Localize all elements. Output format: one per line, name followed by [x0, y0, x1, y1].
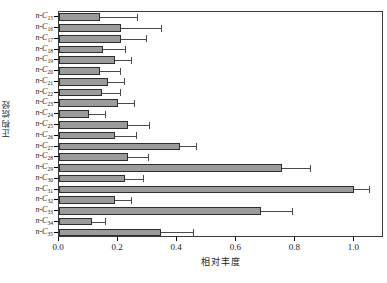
- x-tick-label-0.6: 0.6: [230, 242, 241, 252]
- bar-n-C22: [59, 89, 102, 97]
- error-bar-cap-n-C19: [131, 57, 132, 64]
- y-tick-label-n-C16: n-C16: [35, 22, 53, 32]
- error-bar-line-n-C28: [128, 157, 147, 158]
- y-tick-mark: [54, 102, 58, 103]
- error-bar-line-n-C19: [115, 60, 131, 61]
- bar-n-C30: [59, 175, 125, 183]
- error-bar-line-n-C23: [118, 103, 134, 104]
- x-axis-title: 相对丰度: [58, 255, 383, 268]
- error-bar-cap-n-C18: [125, 46, 126, 53]
- x-tick-mark: [176, 237, 177, 241]
- y-tick-mark: [54, 49, 58, 50]
- bar-row-n-C22: [59, 87, 384, 98]
- error-bar-line-n-C30: [125, 179, 143, 180]
- bar-row-n-C29: [59, 163, 384, 174]
- y-tick-mark: [54, 156, 58, 157]
- y-tick-label-n-C19: n-C19: [35, 54, 53, 64]
- bar-row-n-C25: [59, 120, 384, 131]
- bar-row-n-C15: [59, 12, 384, 23]
- y-tick-mark: [54, 124, 58, 125]
- y-tick-label-n-C32: n-C32: [35, 194, 53, 204]
- error-bar-line-n-C25: [128, 125, 149, 126]
- x-tick-label-0.0: 0.0: [52, 242, 63, 252]
- bar-row-n-C33: [59, 206, 384, 217]
- y-tick-mark: [54, 27, 58, 28]
- bar-n-C35: [59, 229, 161, 237]
- error-bar-cap-n-C32: [131, 197, 132, 204]
- error-bar-line-n-C32: [115, 200, 131, 201]
- bar-row-n-C17: [59, 34, 384, 45]
- y-tick-mark: [54, 113, 58, 114]
- y-axis-title-text: 正构烷烃: [1, 99, 13, 137]
- y-tick-label-n-C24: n-C24: [35, 108, 53, 118]
- error-bar-line-n-C21: [108, 82, 124, 83]
- error-bar-line-n-C18: [103, 49, 125, 50]
- error-bar-line-n-C20: [100, 71, 119, 72]
- bar-row-n-C24: [59, 109, 384, 120]
- bar-n-C19: [59, 56, 115, 64]
- error-bar-cap-n-C34: [105, 218, 106, 225]
- plot-area: [58, 11, 383, 237]
- y-tick-label-n-C17: n-C17: [35, 33, 53, 43]
- bar-row-n-C20: [59, 66, 384, 77]
- y-tick-mark: [54, 232, 58, 233]
- error-bar-cap-n-C30: [143, 175, 144, 182]
- y-tick-label-n-C35: n-C35: [35, 227, 53, 237]
- y-tick-mark: [54, 167, 58, 168]
- x-tick-mark: [117, 237, 118, 241]
- error-bar-line-n-C34: [92, 222, 105, 223]
- error-bar-cap-n-C33: [292, 208, 293, 215]
- error-bar-cap-n-C21: [124, 78, 125, 85]
- bar-n-C34: [59, 218, 92, 226]
- bar-n-C24: [59, 110, 89, 118]
- y-tick-mark: [54, 210, 58, 211]
- y-tick-mark: [54, 189, 58, 190]
- error-bar-line-n-C33: [261, 211, 292, 212]
- y-tick-label-n-C23: n-C23: [35, 97, 53, 107]
- bar-row-n-C21: [59, 77, 384, 88]
- bar-row-n-C27: [59, 141, 384, 152]
- bar-n-C32: [59, 196, 115, 204]
- bar-n-C25: [59, 121, 128, 129]
- error-bar-cap-n-C22: [120, 89, 121, 96]
- y-tick-label-n-C31: n-C31: [35, 184, 53, 194]
- y-tick-label-n-C22: n-C22: [35, 87, 53, 97]
- chart-figure: 正构烷烃 n-C15n-C16n-C17n-C18n-C19n-C20n-C21…: [0, 0, 387, 283]
- bar-row-n-C23: [59, 98, 384, 109]
- y-tick-mark: [54, 221, 58, 222]
- y-tick-mark: [54, 38, 58, 39]
- y-tick-mark: [54, 59, 58, 60]
- y-tick-label-n-C26: n-C26: [35, 130, 53, 140]
- bar-row-n-C30: [59, 173, 384, 184]
- x-tick-mark: [235, 237, 236, 241]
- error-bar-cap-n-C31: [369, 186, 370, 193]
- error-bar-line-n-C15: [100, 17, 137, 18]
- bar-row-n-C16: [59, 23, 384, 34]
- bar-row-n-C19: [59, 55, 384, 66]
- error-bar-line-n-C24: [89, 114, 105, 115]
- y-tick-mark: [54, 92, 58, 93]
- bar-row-n-C28: [59, 152, 384, 163]
- y-tick-label-n-C29: n-C29: [35, 162, 53, 172]
- bar-n-C20: [59, 67, 100, 75]
- bar-n-C33: [59, 207, 261, 215]
- x-tick-label-0.4: 0.4: [171, 242, 182, 252]
- error-bar-line-n-C17: [121, 39, 146, 40]
- error-bar-line-n-C27: [180, 146, 196, 147]
- y-tick-mark: [54, 146, 58, 147]
- x-tick-mark: [58, 237, 59, 241]
- bar-n-C21: [59, 78, 108, 86]
- y-tick-label-n-C25: n-C25: [35, 119, 53, 129]
- y-tick-label-n-C18: n-C18: [35, 44, 53, 54]
- bar-n-C17: [59, 35, 121, 43]
- error-bar-cap-n-C35: [193, 229, 194, 236]
- bar-row-n-C32: [59, 195, 384, 206]
- error-bar-line-n-C35: [161, 232, 194, 233]
- error-bar-cap-n-C20: [120, 68, 121, 75]
- error-bar-line-n-C31: [354, 189, 369, 190]
- y-tick-mark: [54, 70, 58, 71]
- y-tick-label-n-C30: n-C30: [35, 173, 53, 183]
- bar-n-C16: [59, 24, 121, 32]
- error-bar-cap-n-C23: [134, 100, 135, 107]
- bar-row-n-C26: [59, 130, 384, 141]
